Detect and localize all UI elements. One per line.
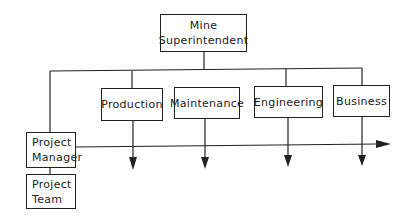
project-manager-box: Project Manager	[26, 132, 76, 168]
business-label: Business	[336, 94, 387, 109]
arrow-down-maintenance	[201, 157, 209, 169]
arrow-down-business	[358, 155, 366, 166]
mine-superintendent-box: Mine Superintendent	[160, 14, 247, 52]
project-manager-line2: Manager	[32, 150, 82, 165]
maintenance-label: Maintenance	[170, 96, 244, 111]
arrow-down-engineering	[284, 155, 292, 167]
arrow-down-production	[129, 157, 137, 170]
project-manager-line1: Project	[32, 135, 72, 150]
engineering-label: Engineering	[254, 95, 323, 110]
production-label: Production	[101, 97, 163, 112]
mine-superintendent-line2: Superintendent	[159, 33, 249, 48]
project-team-box: Project Team	[26, 174, 76, 209]
project-team-line2: Team	[32, 192, 62, 207]
maintenance-box: Maintenance	[174, 87, 240, 119]
engineering-box: Engineering	[254, 86, 323, 118]
arrow-right	[376, 140, 391, 148]
production-box: Production	[101, 88, 163, 121]
business-box: Business	[333, 85, 390, 117]
mine-superintendent-line1: Mine	[190, 18, 218, 33]
project-team-line1: Project	[32, 177, 72, 192]
